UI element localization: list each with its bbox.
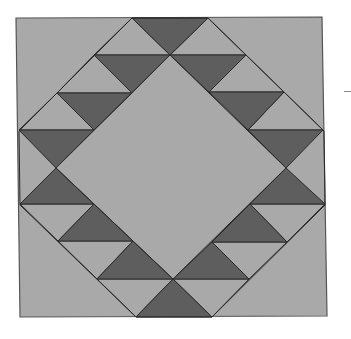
side-dash-mark bbox=[344, 91, 351, 92]
outer-square bbox=[16, 17, 327, 317]
quilt-block-diagram bbox=[0, 0, 351, 339]
